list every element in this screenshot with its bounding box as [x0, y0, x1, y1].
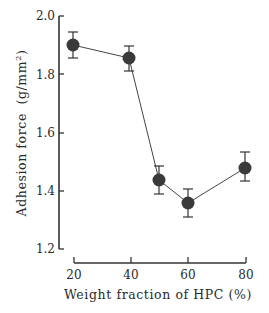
y-tick-label: 1.6: [36, 126, 55, 140]
data-markers: [67, 39, 252, 210]
y-tick-label: 2.0: [36, 9, 55, 23]
data-point: [182, 197, 195, 210]
x-axis-title: Weight fraction of HPC (%): [64, 287, 252, 302]
y-label-close: ): [14, 50, 29, 55]
y-tick-label: 1.4: [36, 184, 55, 198]
data-point: [153, 174, 166, 187]
svg-text:Adhesion force (g/mm2): Adhesion force (g/mm2): [14, 50, 29, 218]
data-point: [239, 162, 252, 175]
chart: 2.0 1.8 1.6 1.4 1.2 Adhesion force (g/mm…: [0, 0, 269, 313]
data-point: [123, 52, 136, 65]
y-tick-label: 1.2: [36, 242, 55, 256]
y-tick-label: 1.8: [36, 68, 55, 82]
y-axis-title: Adhesion force (g/mm2): [14, 50, 29, 218]
x-tick-label: 80: [238, 268, 253, 282]
x-tick-label: 40: [123, 268, 138, 282]
y-label-unit: (g/mm: [14, 61, 29, 105]
x-tick-label: 20: [66, 268, 81, 282]
y-axis: 2.0 1.8 1.6 1.4 1.2: [36, 9, 64, 256]
x-tick-label: 60: [180, 268, 195, 282]
y-label-main: Adhesion force: [14, 113, 29, 217]
error-bars: [68, 32, 250, 217]
x-axis: 20 40 60 80 Weight fraction of HPC (%): [64, 257, 254, 302]
data-point: [67, 39, 80, 52]
